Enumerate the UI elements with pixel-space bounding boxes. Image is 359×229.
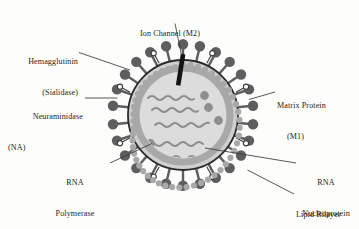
leader-hemagglutinin [79,53,130,71]
virion-interior [140,72,227,159]
label-neuraminidase-line1: Neuraminidase [0,112,83,122]
label-matrix-protein: Matrix Protein (M1) [277,81,357,152]
label-rna-nucleoprotein-line1: RNA [294,178,358,188]
ha-spike [228,69,246,83]
ha-spike [237,101,258,111]
ha-spike [108,101,129,111]
label-neuraminidase: Neuraminidase (NA) [0,92,83,163]
leader-lipid-bilayer [248,170,295,194]
label-neuraminidase-line2: (NA) [0,143,83,153]
ha-spike [108,119,129,129]
label-rna-polymerase-line1: RNA [38,178,112,188]
label-ion-channel: Ion Channel (M2) [105,9,235,50]
label-rna-polymerase: RNA Polymerase [38,158,112,229]
label-rna-polymerase-line2: Polymerase [38,209,112,219]
label-lipid-bilayer-line1: Lipid Bilayer [296,210,358,220]
label-hemagglutinin-line1: Hemagglutinin [2,57,78,67]
label-matrix-protein-line2: (M1) [277,132,357,142]
ha-spike [131,57,147,74]
label-matrix-protein-line1: Matrix Protein [277,101,357,111]
leader-matrix-protein [249,92,275,100]
label-lipid-bilayer: Lipid Bilayer [296,190,358,229]
ha-spike [219,57,235,74]
ha-spike [120,69,138,83]
label-ion-channel-line1: Ion Channel (M2) [105,29,235,39]
